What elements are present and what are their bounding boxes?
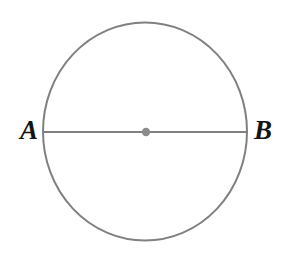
circle-diagram-figure: A B xyxy=(0,0,287,260)
center-point-dot xyxy=(142,128,150,136)
diagram-canvas xyxy=(0,0,287,260)
point-label-a: A xyxy=(20,117,38,144)
point-label-b: B xyxy=(254,117,272,144)
